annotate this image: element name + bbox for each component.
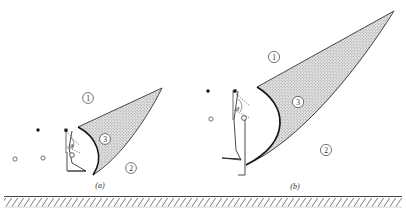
region-label-text: 1 xyxy=(272,53,276,62)
region-label-text: 3 xyxy=(296,98,300,107)
particle-filled xyxy=(233,89,236,92)
figure-canvas: θ 1 3 2 (a) xyxy=(0,0,406,216)
region-label-1-a: 1 xyxy=(83,93,94,104)
body-wall-b xyxy=(238,118,245,175)
body-outline-a xyxy=(68,131,86,171)
region-label-2-b: 2 xyxy=(320,144,331,155)
region-label-2-a: 2 xyxy=(126,163,137,174)
theta-label-b: θ xyxy=(236,105,240,112)
region-label-3-b: 3 xyxy=(292,96,303,107)
region-label-text: 2 xyxy=(324,146,328,155)
particle-open xyxy=(70,153,75,158)
ground-band xyxy=(4,197,402,208)
panel-a: θ 1 3 2 (a) xyxy=(13,88,162,190)
technical-diagram-svg: θ 1 3 2 (a) xyxy=(0,0,406,216)
panel-caption-b: (b) xyxy=(290,182,300,191)
region-label-3-a: 3 xyxy=(100,134,111,145)
body-base-b xyxy=(222,158,241,159)
region-label-text: 1 xyxy=(86,94,90,103)
particle-open xyxy=(242,116,247,121)
panel-caption-a: (a) xyxy=(95,181,105,190)
panel-b: θ 1 3 2 (b) xyxy=(206,11,394,191)
particle-open xyxy=(209,117,213,121)
theta-label-a: θ xyxy=(70,142,74,149)
particle-filled xyxy=(36,128,39,131)
particle-filled xyxy=(206,89,209,92)
body-outline-b xyxy=(222,91,241,160)
particle-filled xyxy=(64,129,67,132)
region-label-1-b: 1 xyxy=(268,51,279,62)
wedge-region-3-fill-b xyxy=(246,11,394,165)
region-label-text: 2 xyxy=(129,164,133,173)
ground-hatch-fill xyxy=(4,197,402,207)
particle-open xyxy=(13,157,17,161)
particle-open xyxy=(41,156,45,160)
region-label-text: 3 xyxy=(103,135,107,144)
